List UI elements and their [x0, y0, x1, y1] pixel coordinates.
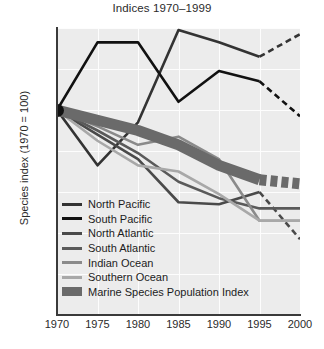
x-tick-label: 1975: [76, 318, 120, 330]
legend-item-label: Indian Ocean: [88, 257, 153, 269]
legend-swatch-icon: [62, 287, 82, 296]
legend-item: North Pacific: [62, 197, 249, 212]
legend-item-label: North Pacific: [88, 198, 150, 210]
x-tick-label: 1990: [197, 318, 241, 330]
chart-figure: Indices 1970–1999 Species index (1970 = …: [0, 0, 324, 349]
chart-title: Indices 1970–1999: [0, 2, 324, 14]
legend-item: North Atlantic: [62, 226, 249, 241]
legend-swatch-icon: [62, 203, 82, 206]
legend-item-label: North Atlantic: [88, 227, 153, 239]
legend-swatch-icon: [62, 217, 82, 220]
legend-item: South Pacific: [62, 212, 249, 227]
legend-item-label: Marine Species Population Index: [88, 286, 249, 298]
legend-swatch-icon: [62, 247, 82, 250]
legend-item: Marine Species Population Index: [62, 285, 249, 300]
x-tick-label: 2000: [278, 318, 322, 330]
legend-swatch-icon: [62, 232, 82, 235]
x-tick-label: 1995: [238, 318, 282, 330]
legend-item: South Atlantic: [62, 241, 249, 256]
chart-legend: North PacificSouth PacificNorth Atlantic…: [62, 197, 249, 299]
y-axis-line: [56, 27, 58, 316]
legend-item-label: Southern Ocean: [88, 271, 168, 283]
x-tick-label: 1985: [157, 318, 201, 330]
legend-item: Southern Ocean: [62, 270, 249, 285]
legend-item-label: South Pacific: [88, 213, 152, 225]
legend-item: Indian Ocean: [62, 255, 249, 270]
x-tick-label: 1970: [35, 318, 79, 330]
legend-swatch-icon: [62, 276, 82, 279]
x-tick-label: 1980: [116, 318, 160, 330]
legend-swatch-icon: [62, 261, 82, 264]
y-axis-label: Species index (1970 = 100): [18, 78, 30, 238]
legend-item-label: South Atlantic: [88, 242, 155, 254]
origin-marker: [57, 104, 64, 117]
x-axis-line: [56, 314, 301, 316]
